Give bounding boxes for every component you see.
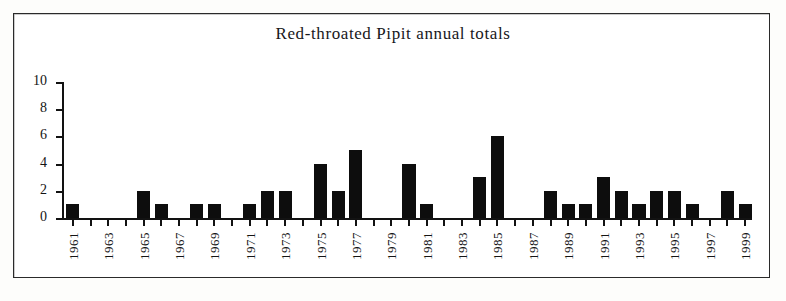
- x-axis-tick: [656, 219, 658, 226]
- x-axis-tick: [390, 219, 392, 226]
- x-axis-tick: [532, 219, 534, 226]
- x-axis-tick: [249, 219, 251, 226]
- x-axis-line: [62, 218, 752, 220]
- bar: [544, 191, 557, 218]
- bar: [155, 204, 168, 218]
- bar: [420, 204, 433, 218]
- x-axis-tick-label: 1963: [101, 232, 117, 260]
- x-axis-tick: [408, 219, 410, 226]
- x-axis-tick-label: 1997: [703, 232, 719, 260]
- x-axis-tick: [426, 219, 428, 226]
- x-axis-tick-label: 1973: [278, 232, 294, 260]
- bar: [632, 204, 645, 218]
- x-axis-tick: [514, 219, 516, 226]
- x-axis-tick-label: 1977: [349, 232, 365, 260]
- x-axis-tick: [443, 219, 445, 226]
- x-axis-tick: [337, 219, 339, 226]
- x-axis-tick: [284, 219, 286, 226]
- x-axis-tick: [213, 219, 215, 226]
- bar: [615, 191, 628, 218]
- bar: [137, 191, 150, 218]
- bar: [686, 204, 699, 218]
- bar: [562, 204, 575, 218]
- x-axis-tick: [373, 219, 375, 226]
- x-axis-tick-label: 1987: [526, 232, 542, 260]
- x-axis-tick: [496, 219, 498, 226]
- x-axis-tick-label: 1979: [384, 232, 400, 260]
- bar: [721, 191, 734, 218]
- x-axis-tick: [585, 219, 587, 226]
- x-axis-tick: [143, 219, 145, 226]
- x-axis-tick: [125, 219, 127, 226]
- x-axis-tick: [744, 219, 746, 226]
- x-axis-tick-label: 1981: [420, 232, 436, 260]
- x-axis-tick: [196, 219, 198, 226]
- x-axis-tick: [160, 219, 162, 226]
- bar: [279, 191, 292, 218]
- bar: [597, 177, 610, 218]
- x-axis-tick: [691, 219, 693, 226]
- x-axis-tick: [709, 219, 711, 226]
- bar-series: [62, 82, 762, 218]
- x-axis-tick: [90, 219, 92, 226]
- x-axis-tick: [461, 219, 463, 226]
- y-axis-tick-label: 2: [40, 182, 47, 198]
- bar: [739, 204, 752, 218]
- x-axis-tick-label: 1995: [667, 232, 683, 260]
- bar: [243, 204, 256, 218]
- x-axis-tick-label: 1999: [738, 232, 754, 260]
- x-axis-tick: [567, 219, 569, 226]
- x-axis-tick-label: 1975: [314, 232, 330, 260]
- bar: [473, 177, 486, 218]
- bar: [314, 164, 327, 218]
- y-axis-tick-label: 0: [40, 209, 47, 225]
- chart-figure: Red-throated Pipit annual totals 0246810…: [0, 0, 786, 301]
- x-axis-tick-label: 1961: [66, 232, 82, 260]
- x-axis-tick-label: 1983: [455, 232, 471, 260]
- x-axis-tick-label: 1965: [137, 232, 153, 260]
- x-axis-tick-label: 1969: [207, 232, 223, 260]
- bar: [261, 191, 274, 218]
- x-axis-tick: [231, 219, 233, 226]
- bar: [332, 191, 345, 218]
- x-axis-tick: [178, 219, 180, 226]
- x-axis-tick: [320, 219, 322, 226]
- x-axis-tick: [107, 219, 109, 226]
- y-axis-tick-label: 6: [40, 127, 47, 143]
- x-axis-tick: [673, 219, 675, 226]
- bar: [579, 204, 592, 218]
- x-axis-tick-label: 1993: [632, 232, 648, 260]
- x-axis-tick-label: 1991: [597, 232, 613, 260]
- x-axis-tick-label: 1985: [490, 232, 506, 260]
- bar: [650, 191, 663, 218]
- y-axis-tick-label: 8: [40, 100, 47, 116]
- plot-area: 0246810 19611963196519671969197119731975…: [62, 82, 762, 218]
- x-axis-tick: [72, 219, 74, 226]
- x-axis-tick: [638, 219, 640, 226]
- bar: [208, 204, 221, 218]
- x-axis-tick-label: 1989: [561, 232, 577, 260]
- x-axis-tick: [726, 219, 728, 226]
- bar: [402, 164, 415, 218]
- y-axis-tick-label: 10: [33, 73, 47, 89]
- x-axis-tick: [355, 219, 357, 226]
- bar: [66, 204, 79, 218]
- x-axis-tick: [620, 219, 622, 226]
- x-axis-tick: [302, 219, 304, 226]
- y-axis-tick-label: 4: [40, 155, 47, 171]
- x-axis-tick-label: 1967: [172, 232, 188, 260]
- x-axis-tick: [479, 219, 481, 226]
- y-axis-tick: 0: [56, 218, 63, 220]
- bar: [190, 204, 203, 218]
- bar: [491, 136, 504, 218]
- x-axis-tick: [266, 219, 268, 226]
- bar: [668, 191, 681, 218]
- bar: [349, 150, 362, 218]
- x-axis-tick-label: 1971: [243, 232, 259, 260]
- x-axis-tick: [603, 219, 605, 226]
- chart-title: Red-throated Pipit annual totals: [0, 24, 786, 44]
- x-axis-tick: [550, 219, 552, 226]
